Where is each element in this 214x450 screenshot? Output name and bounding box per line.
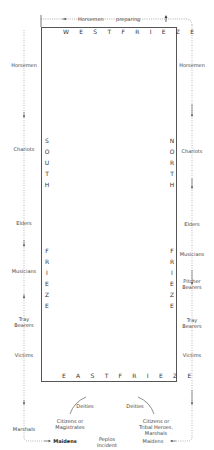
citizens-left-line2: Magistrates [45, 424, 95, 430]
deities-right: Deities [122, 403, 148, 409]
north-pitcher-bearers-line2: Bearers [170, 284, 214, 290]
north-tray-bearers-line2: Bearers [170, 323, 214, 329]
deities-left: Deities [72, 403, 98, 409]
west-frieze-title: W E S T F R I E Z E [63, 28, 198, 35]
north-victims: Victims [170, 352, 214, 358]
south-elders: Elders [2, 220, 46, 226]
south-horsemen: Horsemen [2, 62, 46, 68]
south-marshals: Marshals [2, 426, 46, 432]
south-maidens: Maidens [50, 438, 80, 444]
south-musicians: Musicians [2, 268, 46, 274]
north-elders: Elders [170, 221, 214, 227]
label-top-preparing: preparing [116, 16, 140, 22]
south-chariots: Chariots [2, 146, 46, 152]
south-victims: Victims [2, 352, 46, 358]
north-maidens: Maidens [138, 438, 168, 444]
north-horsemen: Horsemen [170, 62, 214, 68]
peplos-incident-line2: Incident [92, 442, 122, 448]
citizens-right-line3: Marshals [128, 430, 184, 436]
north-musicians: Musicians [170, 251, 214, 257]
east-frieze-title: E A S T F R I E Z E [62, 372, 195, 379]
south-tray-bearers-line2: Bearers [2, 322, 46, 328]
label-top-horsemen: Horsemen [78, 16, 104, 22]
parthenon-frieze-frame [41, 27, 177, 382]
north-chariots: Chariots [170, 148, 214, 154]
